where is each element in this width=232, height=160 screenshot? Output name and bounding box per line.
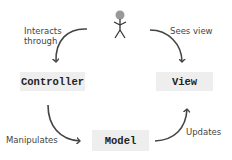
edge-label-manipulates: Manipulates [6, 135, 58, 145]
edge-label-interacts-line1: Interacts [24, 26, 62, 36]
edge-label-interacts-line2: through [24, 36, 62, 46]
view-node: View [156, 72, 213, 91]
arrow-updates [155, 109, 187, 141]
mvc-diagram: Interacts through Sees view Manipulates … [0, 0, 232, 160]
edge-label-sees-view: Sees view [170, 26, 213, 36]
stick-figure-user-icon [114, 11, 126, 39]
edge-label-interacts: Interacts through [24, 26, 62, 46]
controller-node: Controller [20, 72, 85, 91]
edge-label-updates: Updates [186, 127, 221, 137]
model-node: Model [92, 130, 149, 151]
